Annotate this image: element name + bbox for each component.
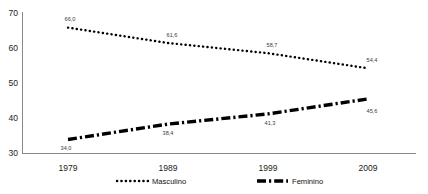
data-label-masculino-1979: 66,0 [65,16,76,22]
data-label-feminino-1989: 38,4 [163,130,174,136]
y-axis-tick-labels: 70 60 50 40 30 [9,8,19,159]
data-labels-feminino: 34,0 38,4 41,3 45,6 [61,108,378,151]
legend-item-masculino[interactable]: Masculino [117,177,186,186]
y-tick-label-60: 60 [9,43,19,53]
data-label-feminino-2009: 45,6 [367,108,378,114]
x-tick-label-2009: 2009 [359,163,378,173]
axis-group [23,12,417,154]
legend-item-feminino[interactable]: Feminino [257,177,323,186]
y-tick-label-40: 40 [9,113,19,123]
series-line-feminino [68,99,368,140]
data-label-masculino-2009: 54,4 [367,57,378,63]
legend-label-feminino: Feminino [292,177,323,186]
y-tick-label-70: 70 [9,8,19,18]
data-label-masculino-1989: 61,6 [167,32,178,38]
data-label-masculino-1999: 58,7 [267,42,278,48]
x-tick-label-1979: 1979 [59,163,78,173]
x-axis-tick-labels: 1979 1989 1999 2009 [59,163,378,173]
data-label-feminino-1999: 41,3 [265,120,276,126]
data-label-feminino-1979: 34,0 [61,145,72,151]
legend-label-masculino: Masculino [152,177,186,186]
y-tick-label-30: 30 [9,148,19,158]
data-labels-masculino: 66,0 61,6 58,7 54,4 [65,16,378,63]
chart-legend: Masculino Feminino [117,177,323,186]
series-line-masculino [68,28,368,69]
y-tick-label-50: 50 [9,78,19,88]
line-chart: 70 60 50 40 30 1979 1989 1999 2009 66,0 … [0,0,428,194]
x-tick-label-1989: 1989 [159,163,178,173]
chart-canvas: 70 60 50 40 30 1979 1989 1999 2009 66,0 … [0,0,428,194]
x-tick-label-1999: 1999 [259,163,278,173]
